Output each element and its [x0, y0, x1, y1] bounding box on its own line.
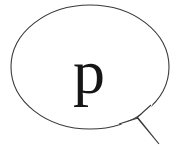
speech-bubble-graphic [0, 0, 180, 159]
image-canvas: p [0, 0, 180, 159]
